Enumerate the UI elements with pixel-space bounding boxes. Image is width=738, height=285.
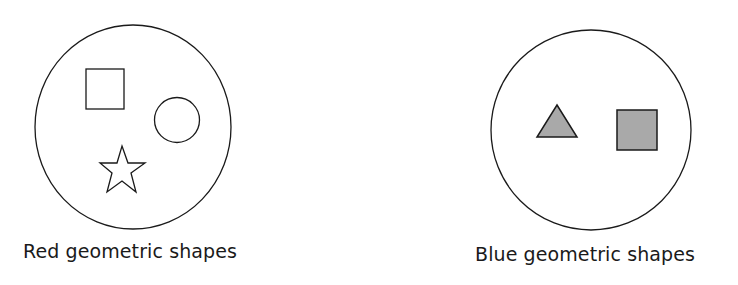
blue-group-boundary-circle [491,30,691,230]
outline-circle-shape [155,98,200,143]
outline-star-shape [100,146,145,192]
red-group-boundary-circle [35,25,231,229]
outline-square-shape [86,69,124,109]
shaded-triangle-shape [537,105,577,137]
red-shapes-group [35,25,231,229]
shaded-square-shape [617,110,657,150]
blue-shapes-group [491,30,691,230]
blue-group-label: Blue geometric shapes [475,243,695,265]
red-group-label: Red geometric shapes [23,240,237,262]
